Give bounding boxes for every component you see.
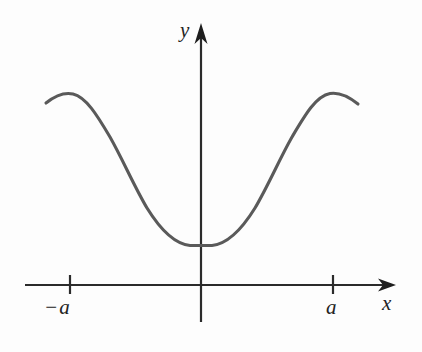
tick-label-positive-a: a	[326, 297, 337, 318]
tick-label-negative-a: −a	[44, 297, 71, 318]
graph-figure: y x −a a	[0, 0, 422, 352]
y-axis-label: y	[180, 20, 189, 41]
x-axis-label: x	[382, 293, 391, 314]
